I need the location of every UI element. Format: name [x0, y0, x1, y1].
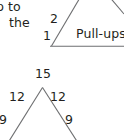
- top-figure-left-lower-label: 1: [43, 30, 51, 43]
- top-figure-right-slant: [107, 0, 124, 14]
- tree-right-branch-value: 12: [50, 91, 66, 104]
- tree-left-lower-value: 9: [0, 114, 7, 127]
- top-figure-caption: Pull-ups: [76, 28, 124, 41]
- body-text-fragment-line-1: p to: [0, 1, 21, 14]
- tree-left-branch-value: 12: [9, 91, 25, 104]
- tree-apex-value: 15: [35, 68, 51, 81]
- document-page-fragment: p to the 2 1 Pull-ups 15 12 12 9 9: [0, 0, 124, 140]
- tree-right-lower-value: 9: [65, 114, 73, 127]
- body-text-fragment-line-2: the: [9, 17, 30, 30]
- top-figure-left-upper-label: 2: [50, 13, 58, 26]
